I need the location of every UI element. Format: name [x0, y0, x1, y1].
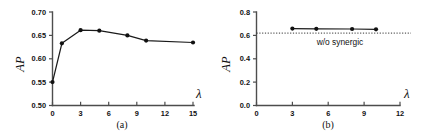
x-tick-label-b-0: 0: [254, 109, 258, 118]
y-tick-label-a-4: 0.50: [32, 101, 46, 110]
y-tick-label-a-0: 0.70: [32, 8, 46, 17]
x-tick-label-a-4: 12: [161, 109, 169, 118]
y-axis-title-b: AP: [219, 56, 233, 73]
x-tick-label-b-4: 12: [396, 109, 404, 118]
y-axis-title-a: AP: [13, 56, 27, 73]
y-tick-label-a-1: 0.65: [32, 31, 46, 40]
series-line-a: [53, 30, 194, 82]
y-tick-label-b-1: 0.6: [240, 31, 250, 40]
chart-panel-b: 0.8 0.6 0.4 0.2 0.0 0 3 6 9 12 AP λ: [210, 0, 421, 134]
x-tick-label-b-3: 9: [362, 109, 366, 118]
y-tick-label-b-0: 0.8: [240, 8, 250, 17]
chart-a-svg: 0.70 0.65 0.60 0.55 0.50 0 3 6 9 12 15 A…: [0, 0, 210, 134]
panel-caption-b: (b): [322, 119, 334, 131]
x-tick-label-a-1: 3: [79, 109, 83, 118]
figure-root: 0.70 0.65 0.60 0.55 0.50 0 3 6 9 12 15 A…: [0, 0, 421, 134]
chart-panel-a: 0.70 0.65 0.60 0.55 0.50 0 3 6 9 12 15 A…: [0, 0, 210, 134]
y-tick-label-a-2: 0.60: [32, 54, 46, 63]
panel-caption-a: (a): [116, 119, 127, 131]
y-tick-label-b-2: 0.4: [240, 54, 251, 63]
x-axis-title-a: λ: [195, 86, 202, 101]
x-tick-label-a-0: 0: [50, 109, 54, 118]
x-tick-label-b-2: 6: [326, 109, 330, 118]
x-tick-label-a-5: 15: [189, 109, 197, 118]
x-axis-title-b: λ: [403, 86, 410, 101]
y-tick-label-b-3: 0.2: [240, 78, 250, 87]
chart-b-svg: 0.8 0.6 0.4 0.2 0.0 0 3 6 9 12 AP λ: [210, 0, 421, 134]
y-tick-label-b-4: 0.0: [240, 101, 250, 110]
x-tick-label-a-2: 6: [107, 109, 111, 118]
series-line-b: [292, 29, 376, 30]
y-tick-label-a-3: 0.55: [32, 78, 46, 87]
baseline-annotation-label-b: w/o synergic: [316, 37, 364, 47]
x-tick-label-a-3: 9: [135, 109, 139, 118]
x-tick-label-b-1: 3: [290, 109, 294, 118]
